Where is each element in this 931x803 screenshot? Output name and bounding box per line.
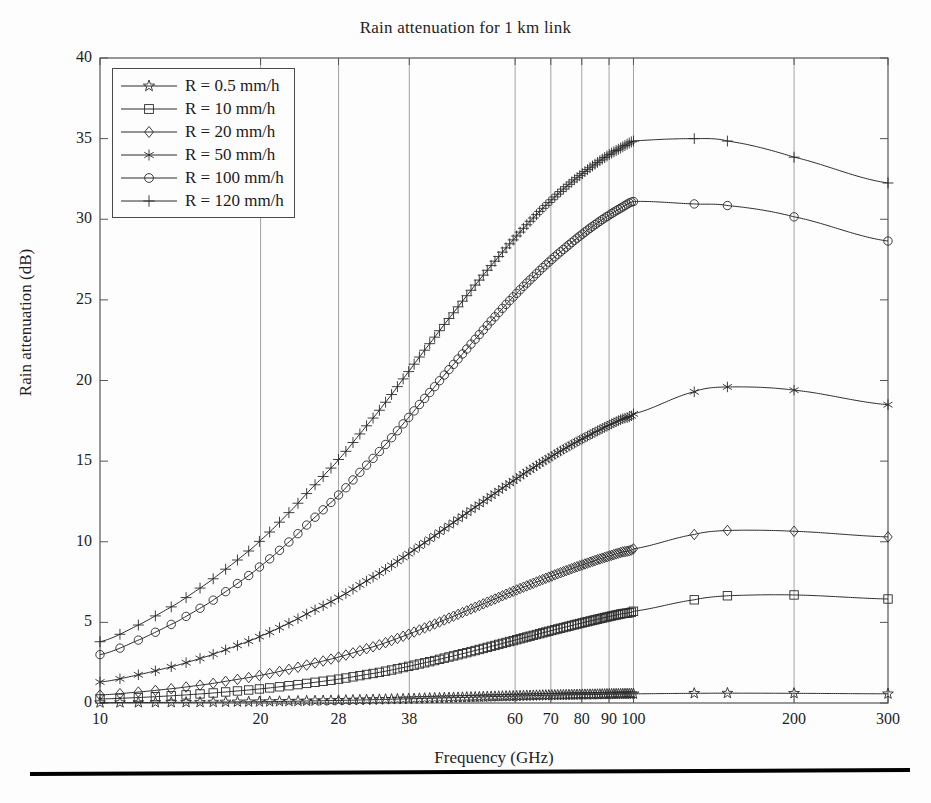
x-tick-label: 10 [80,710,120,728]
x-axis-label: Frequency (GHz) [100,748,888,768]
y-tick-label: 15 [46,451,92,469]
data-marker [143,80,154,91]
legend-label: R = 120 mm/h [179,191,284,211]
legend-marker-diamond-icon [119,123,179,141]
legend-marker-plus-icon [119,192,179,210]
x-tick-label: 60 [495,710,535,728]
y-tick-label: 20 [46,371,92,389]
legend-item-2[interactable]: R = 10 mm/h [119,97,284,120]
legend-item-6[interactable]: R = 120 mm/h [119,189,284,212]
y-tick-label: 35 [46,129,92,147]
legend-marker-asterisk-icon [119,146,179,164]
y-tick-label: 25 [46,290,92,308]
y-tick-label: 30 [46,209,92,227]
x-tick-label: 300 [868,710,908,728]
page-rule [30,768,910,776]
y-tick-label: 0 [46,693,92,711]
legend-label: R = 20 mm/h [179,122,275,142]
plot-area: R = 0.5 mm/hR = 10 mm/hR = 20 mm/hR = 50… [100,58,888,703]
legend-marker-pentagram-icon [119,77,179,95]
y-tick-label: 5 [46,612,92,630]
chart-title: Rain attenuation for 1 km link [0,18,931,38]
x-tick-label: 100 [613,710,653,728]
y-axis-label: Rain attenuation (dB) [16,0,46,645]
legend-item-1[interactable]: R = 0.5 mm/h [119,74,284,97]
legend-label: R = 0.5 mm/h [179,76,280,96]
x-tick-label: 28 [319,710,359,728]
legend-label: R = 50 mm/h [179,145,275,165]
legend: R = 0.5 mm/hR = 10 mm/hR = 20 mm/hR = 50… [112,68,295,218]
legend-label: R = 10 mm/h [179,99,275,119]
legend-item-4[interactable]: R = 50 mm/h [119,143,284,166]
x-tick-label: 38 [389,710,429,728]
legend-marker-circle-icon [119,169,179,187]
y-tick-label: 10 [46,532,92,550]
legend-marker-square-icon [119,100,179,118]
x-tick-label: 200 [774,710,814,728]
data-marker [143,195,154,206]
y-tick-label: 40 [46,48,92,66]
legend-label: R = 100 mm/h [179,168,284,188]
legend-item-5[interactable]: R = 100 mm/h [119,166,284,189]
figure-canvas: Rain attenuation for 1 km link R = 0.5 m… [0,0,931,803]
legend-item-3[interactable]: R = 20 mm/h [119,120,284,143]
x-tick-label: 20 [241,710,281,728]
